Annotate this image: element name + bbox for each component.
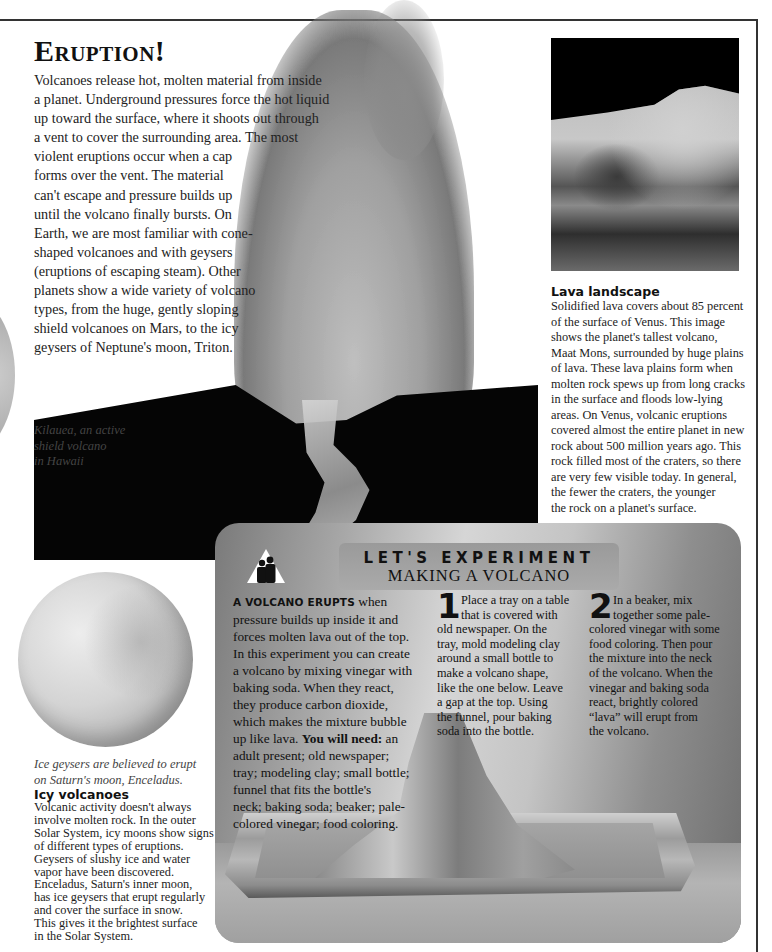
intro-paragraph: Volcanoes release hot, molten material f… bbox=[34, 71, 344, 357]
venus-line: covered almost the entire planet in new bbox=[551, 423, 751, 439]
experiment-banner-subtitle: MAKING A VOLCANO bbox=[339, 566, 619, 586]
venus-line: rock filled most of the craters, so ther… bbox=[551, 454, 751, 470]
materials-line: neck; baking soda; beaker; pale- bbox=[233, 798, 423, 815]
venus-line: areas. On Venus, volcanic eruptions bbox=[551, 408, 751, 424]
intro-line: can't escape and pressure builds up bbox=[34, 186, 344, 205]
intro-line: forces molten lava out of the top. bbox=[233, 628, 423, 645]
icy-line: Volcanic activity doesn't always bbox=[34, 801, 224, 814]
venus-line: of lava. These lava plains form when bbox=[551, 361, 751, 377]
materials-line: funnel that fits the bottle's bbox=[233, 781, 423, 798]
lets-experiment-panel: LET'S EXPERIMENT MAKING A VOLCANO A VOLC… bbox=[215, 523, 741, 943]
experiment-intro: A VOLCANO ERUPTS when pressure builds up… bbox=[233, 593, 423, 832]
step-line: a gap at the top. Using bbox=[437, 695, 587, 710]
experiment-step-1: 1 Place a tray on a table that is covere… bbox=[437, 593, 587, 739]
caption-line: Kilauea, an active bbox=[34, 423, 144, 439]
step-line: around a small bottle to bbox=[437, 651, 587, 666]
intro-line: up toward the surface, where it shoots o… bbox=[34, 109, 344, 128]
intro-line: violent eruptions occur when a cap bbox=[34, 147, 344, 166]
step-line: soda into the bottle. bbox=[437, 724, 587, 739]
intro-line: a vent to cover the surrounding area. Th… bbox=[34, 128, 344, 147]
experiment-banner: LET'S EXPERIMENT MAKING A VOLCANO bbox=[339, 543, 619, 590]
icy-line: in the Solar System. bbox=[34, 930, 224, 943]
icy-line: Solar System, icy moons show signs bbox=[34, 827, 224, 840]
step-line: the funnel, pour baking bbox=[437, 710, 587, 725]
venus-line: rock about 500 million years ago. This bbox=[551, 439, 751, 455]
materials-line: tray; modeling clay; small bottle; bbox=[233, 764, 423, 781]
intro-line: a planet. Underground pressures force th… bbox=[34, 90, 344, 109]
experiment-banner-title: LET'S EXPERIMENT bbox=[339, 549, 619, 567]
enceladus-moon-image bbox=[18, 572, 193, 747]
intro-line: which makes the mixture bubble bbox=[233, 713, 423, 730]
page-frame-right-rule bbox=[756, 19, 758, 952]
intro-line: forms over the vent. The material bbox=[34, 166, 344, 185]
step-line: food coloring. Then pour bbox=[589, 637, 739, 652]
intro-line: Volcanoes release hot, molten material f… bbox=[34, 71, 344, 90]
intro-line: geysers of Neptune's moon, Triton. bbox=[34, 338, 344, 357]
intro-line: baking soda. When they react, bbox=[233, 679, 423, 696]
icy-line: of different types of eruptions. bbox=[34, 840, 224, 853]
venus-line: of the surface of Venus. This image bbox=[551, 315, 751, 331]
step-line: “lava” will erupt from bbox=[589, 710, 739, 725]
step-line: the mixture into the neck bbox=[589, 651, 739, 666]
venus-line: are very few visible today. In general, bbox=[551, 470, 751, 486]
intro-line: Earth, we are most familiar with cone- bbox=[34, 224, 344, 243]
kilauea-caption: Kilauea, an active shield volcano in Haw… bbox=[34, 423, 144, 470]
step-line: vinegar and baking soda bbox=[589, 681, 739, 696]
intro-line: shield volcanoes on Mars, to the icy bbox=[34, 319, 344, 338]
step-line: the volcano. bbox=[589, 724, 739, 739]
materials-line: adult present; old newspaper; bbox=[233, 747, 423, 764]
moon-partial-image bbox=[0, 295, 15, 455]
intro-line: pressure builds up inside it and bbox=[233, 611, 423, 628]
materials-line: colored vinegar; food coloring. bbox=[233, 815, 423, 832]
intro-line: they produce carbon dioxide, bbox=[233, 696, 423, 713]
you-will-need-label: You will need: bbox=[302, 731, 383, 746]
icy-line: Geysers of slushy ice and water bbox=[34, 853, 224, 866]
lava-landscape-text: Solidified lava covers about 85 percent … bbox=[551, 299, 751, 516]
intro-line: In this experiment you can create bbox=[233, 645, 423, 662]
venus-line: the fewer the craters, the younger bbox=[551, 485, 751, 501]
eruption-plume-top bbox=[364, 0, 444, 160]
enceladus-caption: Ice geysers are believed to erupt on Sat… bbox=[34, 756, 234, 788]
venus-line: molten rock spews up from long cracks bbox=[551, 377, 751, 393]
venus-line: shows the planet's tallest volcano, bbox=[551, 330, 751, 346]
adult-supervision-icon bbox=[246, 548, 286, 584]
step-line: make a volcano shape, bbox=[437, 666, 587, 681]
experiment-lead: A VOLCANO ERUPTS bbox=[233, 596, 355, 608]
step-number: 1 bbox=[437, 590, 461, 622]
caption-line: in Hawaii bbox=[34, 454, 144, 470]
intro-line: (eruptions of escaping steam). Other bbox=[34, 262, 344, 281]
experiment-step-2: 2 In a beaker, mix together some pale- c… bbox=[589, 593, 739, 739]
venus-line: Solidified lava covers about 85 percent bbox=[551, 299, 751, 315]
caption-line: on Saturn's moon, Enceladus. bbox=[34, 772, 234, 788]
intro-line: until the volcano finally bursts. On bbox=[34, 205, 344, 224]
step-line: tray, mold modeling clay bbox=[437, 637, 587, 652]
step-line: of the volcano. When the bbox=[589, 666, 739, 681]
step-number: 2 bbox=[589, 590, 613, 622]
icy-volcanoes-text: Volcanic activity doesn't always involve… bbox=[34, 801, 224, 943]
lava-landscape-heading: Lava landscape bbox=[551, 284, 660, 299]
step-line: like the one below. Leave bbox=[437, 681, 587, 696]
venus-line: the rock on a planet's surface. bbox=[551, 501, 751, 517]
icy-line: involve molten rock. In the outer bbox=[34, 814, 224, 827]
venus-maat-mons-image bbox=[551, 38, 739, 271]
venus-line: in the surface and floods low-lying bbox=[551, 392, 751, 408]
intro-line: shaped volcanoes and with geysers bbox=[34, 243, 344, 262]
page-title: Eruption! bbox=[34, 34, 165, 68]
venus-line: Maat Mons, surrounded by huge plains bbox=[551, 346, 751, 362]
intro-line: a volcano by mixing vinegar with bbox=[233, 662, 423, 679]
intro-line: planets show a wide variety of volcano bbox=[34, 281, 344, 300]
caption-line: shield volcano bbox=[34, 439, 144, 455]
step-line: react, brightly colored bbox=[589, 695, 739, 710]
intro-line: types, from the huge, gently sloping bbox=[34, 300, 344, 319]
caption-line: Ice geysers are believed to erupt bbox=[34, 756, 234, 772]
